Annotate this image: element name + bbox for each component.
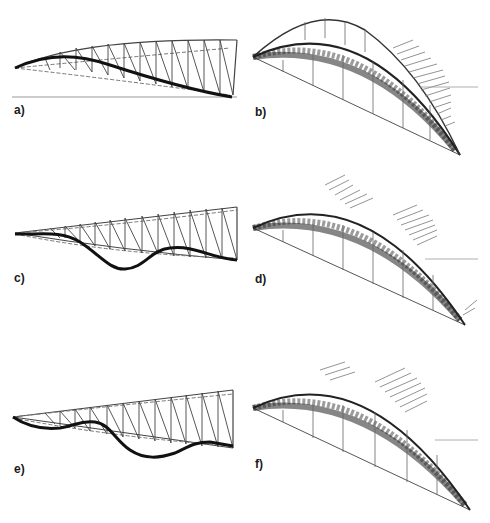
mode-vectors (325, 175, 478, 315)
arch-structure (253, 394, 470, 510)
panel-c: c) (0, 180, 245, 310)
arch-truss-3d-d (245, 170, 490, 330)
arch-truss-3d-b (245, 0, 490, 160)
panel-label-a: a) (14, 103, 25, 117)
panel-label-b: b) (255, 105, 266, 119)
truss-elevation-e (0, 360, 245, 500)
truss-elevation-c (0, 180, 245, 310)
truss-elevation-a (0, 0, 245, 130)
panel-label-e: e) (14, 462, 25, 476)
panel-label-d: d) (255, 272, 266, 286)
arch-structure (253, 18, 460, 155)
mode-vectors (320, 362, 478, 440)
panel-b: b) (245, 0, 490, 160)
panel-label-c: c) (14, 271, 25, 285)
arch-truss-3d-f (245, 350, 490, 523)
panel-f: f) (245, 350, 490, 523)
mode-vectors (393, 40, 478, 126)
panel-d: d) (245, 170, 490, 330)
panel-label-f: f) (255, 457, 263, 471)
panel-e: e) (0, 360, 245, 500)
arch-structure (253, 214, 465, 325)
panel-a: a) (0, 0, 245, 130)
